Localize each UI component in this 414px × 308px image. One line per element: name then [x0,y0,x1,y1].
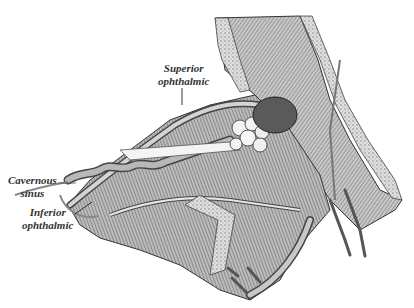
orbit-veins-illustration [0,0,414,308]
anatomical-figure: Superior ophthalmic Cavernous sinus Infe… [0,0,414,308]
label-line: Inferior [22,206,73,219]
label-cavernous-sinus: Cavernous sinus [8,174,57,200]
label-line: Cavernous [8,174,57,187]
label-line: ophthalmic [158,75,209,88]
label-line: sinus [8,187,57,200]
label-line: Superior [158,62,209,75]
label-inferior-ophthalmic: Inferior ophthalmic [22,206,73,232]
label-line: ophthalmic [22,219,73,232]
label-superior-ophthalmic: Superior ophthalmic [158,62,209,88]
